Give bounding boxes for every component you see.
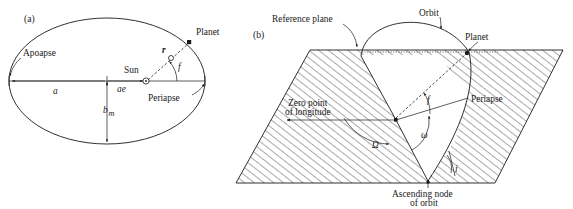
- panel-a-group: (a) Apoapse Periapse Sun Planet a ae b m…: [9, 13, 220, 144]
- panel-a-label: (a): [24, 13, 35, 25]
- sun-label: Sun: [124, 65, 139, 75]
- planet-label-b: Planet: [465, 32, 489, 42]
- planet-marker-a: [187, 40, 191, 44]
- orbital-elements-figure: (a) Apoapse Periapse Sun Planet a ae b m…: [0, 0, 573, 209]
- radius-vector-marker: [169, 56, 174, 61]
- orbit-leader: [440, 17, 441, 29]
- semi-minor-axis-label-group: b m: [103, 105, 115, 118]
- true-anomaly-arc-a: [170, 62, 178, 82]
- orbit-label: Orbit: [419, 8, 439, 18]
- planet-marker-b: [465, 51, 469, 55]
- reference-plane-leader: [343, 24, 357, 47]
- panel-b-group: (b) Reference plane Orbit Planet Periaps…: [236, 8, 563, 208]
- argument-of-periapse-label: ω: [421, 130, 428, 140]
- periapse-leader: [192, 84, 204, 95]
- semi-major-axis-label: a: [53, 86, 58, 96]
- focal-distance-label: ae: [117, 84, 126, 94]
- semi-minor-axis-label: b: [103, 105, 108, 115]
- true-anomaly-label-a: f: [178, 62, 182, 72]
- panel-b-label: (b): [253, 29, 264, 41]
- periapse-label-b: Periapse: [471, 94, 503, 104]
- radius-vector-label: r: [162, 45, 166, 55]
- ascending-node-label-line2: of orbit: [410, 198, 438, 208]
- reference-plane-label: Reference plane: [272, 14, 333, 24]
- sun-focus-center-dot: [145, 80, 147, 82]
- apoapse-label-a: Apoapse: [23, 48, 56, 58]
- radius-vector-line: [148, 43, 189, 80]
- inclination-label: i: [455, 164, 458, 174]
- figure-canvas: (a) Apoapse Periapse Sun Planet a ae b m…: [0, 0, 573, 209]
- semi-minor-axis-subscript: m: [109, 109, 115, 118]
- longitude-ascending-node-label: Ω: [372, 140, 379, 150]
- periapse-label-a: Periapse: [148, 93, 180, 103]
- planet-label-a: Planet: [196, 27, 220, 37]
- zero-point-longitude-label-line2: of longitude: [285, 107, 331, 117]
